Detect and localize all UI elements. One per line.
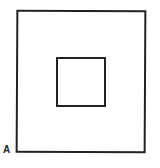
figure-label: A [3, 144, 10, 155]
inner-square [56, 57, 106, 107]
